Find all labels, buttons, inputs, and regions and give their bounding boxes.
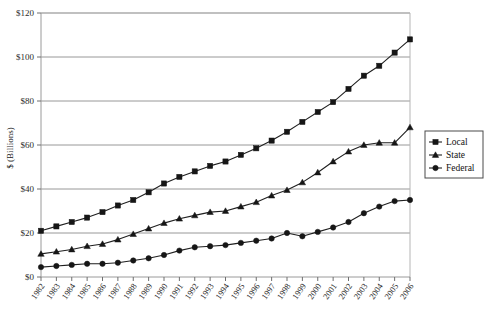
- data-point-local-1987: [115, 203, 120, 208]
- data-point-federal-2006: [407, 197, 412, 202]
- chart-container: $0$20$40$60$80$100$120 19821983198419851…: [0, 0, 485, 332]
- data-point-local-1986: [100, 210, 105, 215]
- data-point-local-2004: [377, 63, 382, 68]
- data-point-federal-2003: [361, 211, 366, 216]
- data-point-local-1999: [300, 119, 305, 124]
- data-point-federal-1999: [300, 234, 305, 239]
- y-tick-label-80: $80: [21, 96, 35, 106]
- data-point-local-1988: [131, 197, 136, 202]
- data-point-local-1997: [269, 138, 274, 143]
- data-point-federal-1994: [223, 242, 228, 247]
- data-point-federal-1991: [177, 248, 182, 253]
- data-point-local-2006: [407, 37, 412, 42]
- data-point-federal-1987: [115, 260, 120, 265]
- data-point-local-2002: [346, 86, 351, 91]
- data-point-local-1985: [85, 215, 90, 220]
- data-point-federal-2005: [392, 198, 397, 203]
- y-axis-title: $ (Billions): [5, 127, 15, 168]
- data-point-local-1996: [254, 146, 259, 151]
- data-point-local-1994: [223, 159, 228, 164]
- data-point-federal-1995: [238, 240, 243, 245]
- data-point-local-2000: [315, 109, 320, 114]
- y-tick-label-100: $100: [16, 52, 35, 62]
- data-point-local-1984: [69, 219, 74, 224]
- y-tick-label-0: $0: [25, 272, 35, 282]
- y-tick-label-40: $40: [21, 184, 35, 194]
- data-point-local-1990: [161, 181, 166, 186]
- data-point-local-2001: [331, 100, 336, 105]
- chart-background: [0, 0, 485, 332]
- chart-legend[interactable]: LocalStateFederal: [425, 131, 483, 178]
- data-point-federal-1996: [254, 238, 259, 243]
- data-point-federal-1992: [192, 245, 197, 250]
- data-point-federal-1993: [207, 244, 212, 249]
- legend-marker-local: [433, 139, 438, 144]
- data-point-federal-1997: [269, 236, 274, 241]
- line-chart: $0$20$40$60$80$100$120 19821983198419851…: [0, 0, 485, 332]
- data-point-federal-1998: [284, 230, 289, 235]
- data-point-federal-1986: [100, 261, 105, 266]
- data-point-local-1992: [192, 169, 197, 174]
- legend-label-state: State: [446, 150, 465, 160]
- data-point-local-2003: [361, 73, 366, 78]
- data-point-local-2005: [392, 50, 397, 55]
- data-point-federal-1990: [161, 252, 166, 257]
- data-point-federal-1988: [131, 258, 136, 263]
- data-point-local-1993: [208, 163, 213, 168]
- data-point-federal-2004: [377, 204, 382, 209]
- data-point-federal-1982: [38, 264, 43, 269]
- y-tick-label-60: $60: [21, 140, 35, 150]
- y-tick-label-20: $20: [21, 228, 35, 238]
- y-tick-label-120: $120: [16, 8, 35, 18]
- data-point-federal-1984: [69, 262, 74, 267]
- data-point-federal-2002: [346, 219, 351, 224]
- data-point-local-1998: [284, 129, 289, 134]
- data-point-local-1995: [238, 152, 243, 157]
- data-point-local-1983: [54, 224, 59, 229]
- data-point-federal-2001: [330, 225, 335, 230]
- legend-marker-federal: [433, 165, 438, 170]
- data-point-local-1989: [146, 190, 151, 195]
- data-point-federal-1985: [84, 261, 89, 266]
- data-point-local-1982: [38, 228, 43, 233]
- legend-label-federal: Federal: [446, 163, 475, 173]
- data-point-federal-2000: [315, 229, 320, 234]
- data-point-local-1991: [177, 174, 182, 179]
- legend-label-local: Local: [446, 137, 468, 147]
- data-point-federal-1989: [146, 256, 151, 261]
- data-point-federal-1983: [54, 263, 59, 268]
